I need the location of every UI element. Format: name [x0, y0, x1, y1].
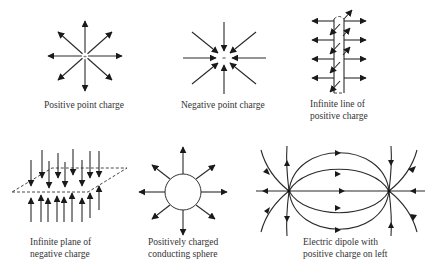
caption-line: Infinite line of — [310, 98, 368, 110]
positive-point-charge-diagram: + — [48, 21, 122, 91]
plus-symbol: + — [83, 53, 87, 61]
caption-line: Electric dipole with — [303, 236, 388, 248]
caption-line: positive charge — [310, 110, 368, 122]
caption-negative-point-charge: Negative point charge — [181, 99, 265, 111]
infinite-line-diagram — [312, 10, 366, 93]
caption-line: Positively charged — [148, 236, 218, 248]
caption-line: negative charge — [30, 248, 91, 260]
caption-infinite-plane: Infinite plane of negative charge — [30, 236, 91, 260]
electric-field-diagrams: + — [0, 0, 432, 273]
caption-line: conducting sphere — [148, 248, 218, 260]
conducting-sphere-diagram — [139, 147, 227, 235]
caption-line: Negative point charge — [181, 99, 265, 111]
caption-infinite-line: Infinite line of positive charge — [310, 98, 368, 122]
electric-dipole-diagram — [256, 146, 425, 236]
caption-line: Infinite plane of — [30, 236, 91, 248]
caption-line: positive charge on left — [303, 248, 388, 260]
caption-conducting-sphere: Positively charged conducting sphere — [148, 236, 218, 260]
caption-electric-dipole: Electric dipole with positive charge on … — [303, 236, 388, 260]
caption-line: Positive point charge — [44, 99, 124, 111]
negative-point-charge-diagram — [183, 22, 266, 94]
infinite-plane-diagram — [12, 149, 127, 222]
caption-positive-point-charge: Positive point charge — [44, 99, 124, 111]
